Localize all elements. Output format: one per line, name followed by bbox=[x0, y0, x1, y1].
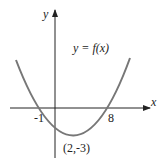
y-axis-label: y bbox=[43, 8, 48, 20]
x-axis-label: x bbox=[151, 96, 156, 108]
function-label: y = f(x) bbox=[73, 42, 109, 54]
vertex-label: (2,-3) bbox=[63, 142, 90, 154]
root-left-label: -1 bbox=[34, 112, 44, 124]
graph-canvas bbox=[0, 0, 161, 163]
root-right-label: 8 bbox=[108, 112, 114, 124]
